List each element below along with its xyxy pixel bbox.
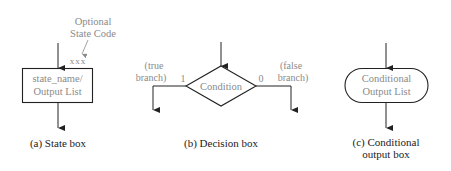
true-branch-label-line1: (true: [145, 60, 164, 72]
optional-label: Optional: [75, 16, 112, 27]
state-box-caption: (a) State box: [30, 137, 87, 150]
decision-box-group: Condition 1 0 (true branch) (false branc…: [136, 42, 309, 150]
state-code-value: xxx: [70, 56, 87, 66]
decision-box-caption: (b) Decision box: [184, 137, 258, 150]
state-name-label: state_name/: [32, 73, 82, 84]
true-value: 1: [181, 73, 186, 84]
state-code-label: State Code: [70, 28, 116, 39]
asm-chart-elements-diagram: Optional State Code xxx state_name/ Outp…: [0, 0, 451, 171]
false-branch-label-line2: branch): [278, 72, 309, 84]
state-output-label: Output List: [33, 86, 81, 97]
conditional-output-group: Conditional Output List (c) Conditional …: [345, 43, 428, 160]
false-branch-label-line1: (false: [280, 60, 303, 72]
true-branch-arrow-icon: [153, 86, 186, 110]
state-box-group: Optional State Code xxx state_name/ Outp…: [23, 16, 117, 150]
condition-label: Condition: [200, 81, 243, 92]
conditional-caption-line2: output box: [362, 148, 410, 160]
false-branch-arrow-icon: [256, 86, 291, 110]
false-value: 0: [259, 73, 264, 84]
conditional-output-label: Output List: [362, 86, 410, 97]
conditional-label: Conditional: [362, 73, 412, 84]
annotation-pointer-icon: [82, 40, 88, 54]
true-branch-label-line2: branch): [136, 72, 167, 84]
